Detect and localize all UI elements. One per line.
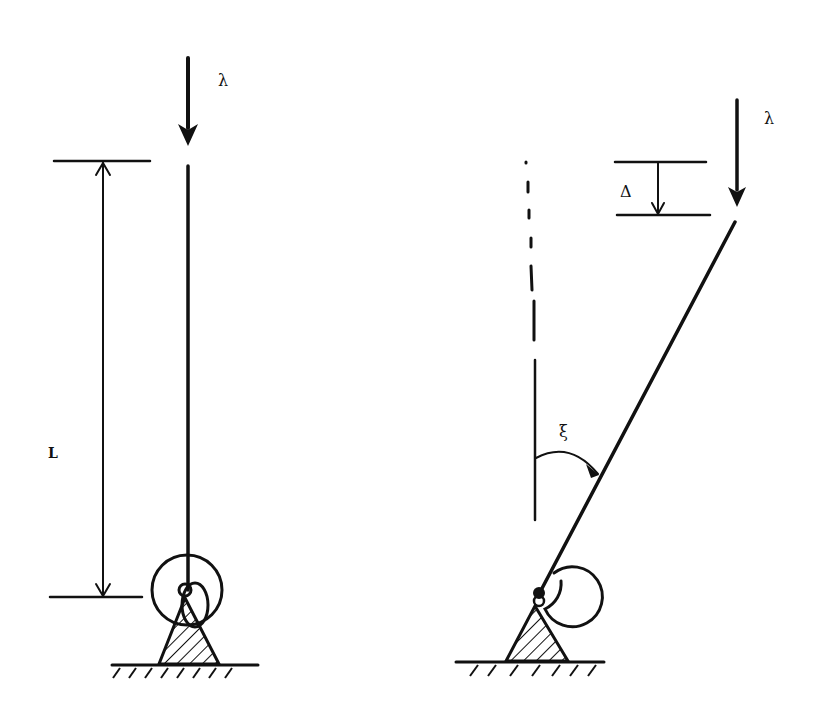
length-dimension bbox=[50, 161, 150, 597]
left-figure: λ L bbox=[48, 58, 258, 678]
right-figure: λ Δ ξ bbox=[456, 100, 774, 676]
deflection-label: Δ bbox=[620, 182, 632, 201]
pin-support-icon bbox=[112, 598, 258, 678]
load-arrow-icon bbox=[178, 58, 198, 146]
angle-label: ξ bbox=[559, 422, 568, 441]
pin-support-icon bbox=[456, 606, 604, 676]
load-arrow-icon bbox=[728, 100, 746, 207]
load-label-left: λ bbox=[218, 71, 228, 90]
column-right bbox=[538, 222, 735, 596]
vertical-reference-line bbox=[526, 162, 535, 520]
angle-arc-icon bbox=[536, 452, 599, 478]
length-label: L bbox=[48, 445, 58, 461]
load-label-right: λ bbox=[764, 109, 774, 128]
diagram-canvas: λ L bbox=[0, 0, 815, 712]
